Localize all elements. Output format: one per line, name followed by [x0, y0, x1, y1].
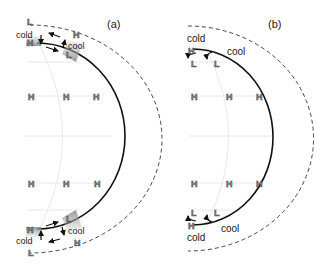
marker-row-bottom-1: H: [28, 179, 35, 189]
panel-b-label: (b): [268, 18, 281, 30]
solid-surface-boundary: [193, 49, 273, 225]
marker-south-corner-low: L: [28, 248, 34, 258]
marker-north-corner-low: L: [27, 17, 33, 27]
panel-a: (a) L cold H H cool L H H H H H H L H co…: [16, 17, 162, 258]
label-north-cold: cold: [187, 33, 205, 44]
faint-gridlines: [188, 30, 272, 244]
panel-b: (b) cold H cool L L H H H H H H L L H co…: [187, 18, 314, 251]
north-circulation-arrows: [41, 33, 65, 51]
label-south-cold: cold: [187, 232, 205, 243]
marker-row-bottom-2: H: [63, 179, 70, 189]
label-south-cool: cool: [68, 226, 85, 236]
marker-south-low-2: L: [214, 208, 220, 218]
marker-row-top-2: H: [63, 92, 70, 102]
diagram-canvas: (a) L cold H H cool L H H H H H H L H co…: [0, 0, 330, 273]
marker-north-cold-high: H: [27, 38, 34, 48]
marker-row-top-3: H: [256, 92, 263, 102]
marker-row-bottom-1: H: [191, 179, 198, 189]
marker-north-low-2: L: [214, 59, 220, 69]
marker-south-cool-high: H: [74, 238, 81, 248]
marker-row-bottom-3: H: [256, 179, 263, 189]
marker-north-cool-low: L: [66, 50, 72, 60]
label-north-cool: cool: [227, 46, 245, 57]
outer-dashed-boundary: [30, 25, 162, 253]
marker-row-top-1: H: [28, 92, 35, 102]
marker-row-top-2: H: [226, 92, 233, 102]
marker-north-low-1: L: [191, 59, 197, 69]
label-south-cold: cold: [16, 236, 33, 246]
marker-row-top-3: H: [93, 92, 100, 102]
marker-north-high: H: [188, 46, 195, 56]
marker-row-bottom-2: H: [226, 179, 233, 189]
marker-south-cool-low: L: [66, 214, 72, 224]
marker-south-high: H: [188, 221, 195, 231]
marker-north-cool-high: H: [73, 30, 80, 40]
marker-south-low-1: L: [191, 208, 197, 218]
panel-a-label: (a): [107, 18, 120, 30]
label-south-cool: cool: [221, 223, 239, 234]
marker-row-top-1: H: [191, 92, 198, 102]
marker-south-cold-high: H: [27, 225, 34, 235]
marker-row-bottom-3: H: [94, 179, 101, 189]
